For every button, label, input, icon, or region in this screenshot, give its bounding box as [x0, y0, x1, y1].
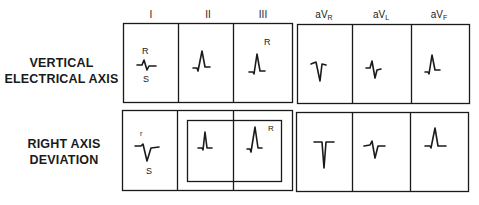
waveform-row1-lead-aVR — [311, 62, 326, 81]
waveform-row1-lead-III — [249, 54, 265, 74]
annotation-row1-lead-I-S: S — [143, 74, 149, 84]
waveform-row2-lead-aVF — [425, 128, 446, 148]
row1-limb-leads-frame — [124, 24, 293, 103]
annotation-row2-lead-I-S: S — [146, 166, 152, 176]
annotation-row2-lead-III-R: R — [268, 124, 274, 133]
waveform-row1-lead-aVL — [366, 61, 381, 78]
row2-limb-leads-frame — [123, 111, 293, 191]
waveform-row2-lead-aVR — [314, 142, 334, 168]
waveform-row1-lead-II — [193, 51, 210, 71]
waveform-row2-lead-II — [198, 132, 212, 150]
waveform-row1-lead-I — [137, 60, 156, 70]
waveform-row2-lead-III — [247, 127, 262, 152]
annotation-row1-lead-I-R: R — [142, 46, 149, 56]
annotation-row1-lead-III-R: R — [264, 37, 271, 47]
ecg-diagram — [0, 0, 479, 205]
waveform-row2-lead-I — [135, 144, 159, 161]
waveform-row2-lead-aVL — [364, 141, 385, 158]
annotation-row2-lead-I-r: r — [140, 130, 142, 137]
waveform-row1-lead-aVF — [425, 55, 440, 74]
